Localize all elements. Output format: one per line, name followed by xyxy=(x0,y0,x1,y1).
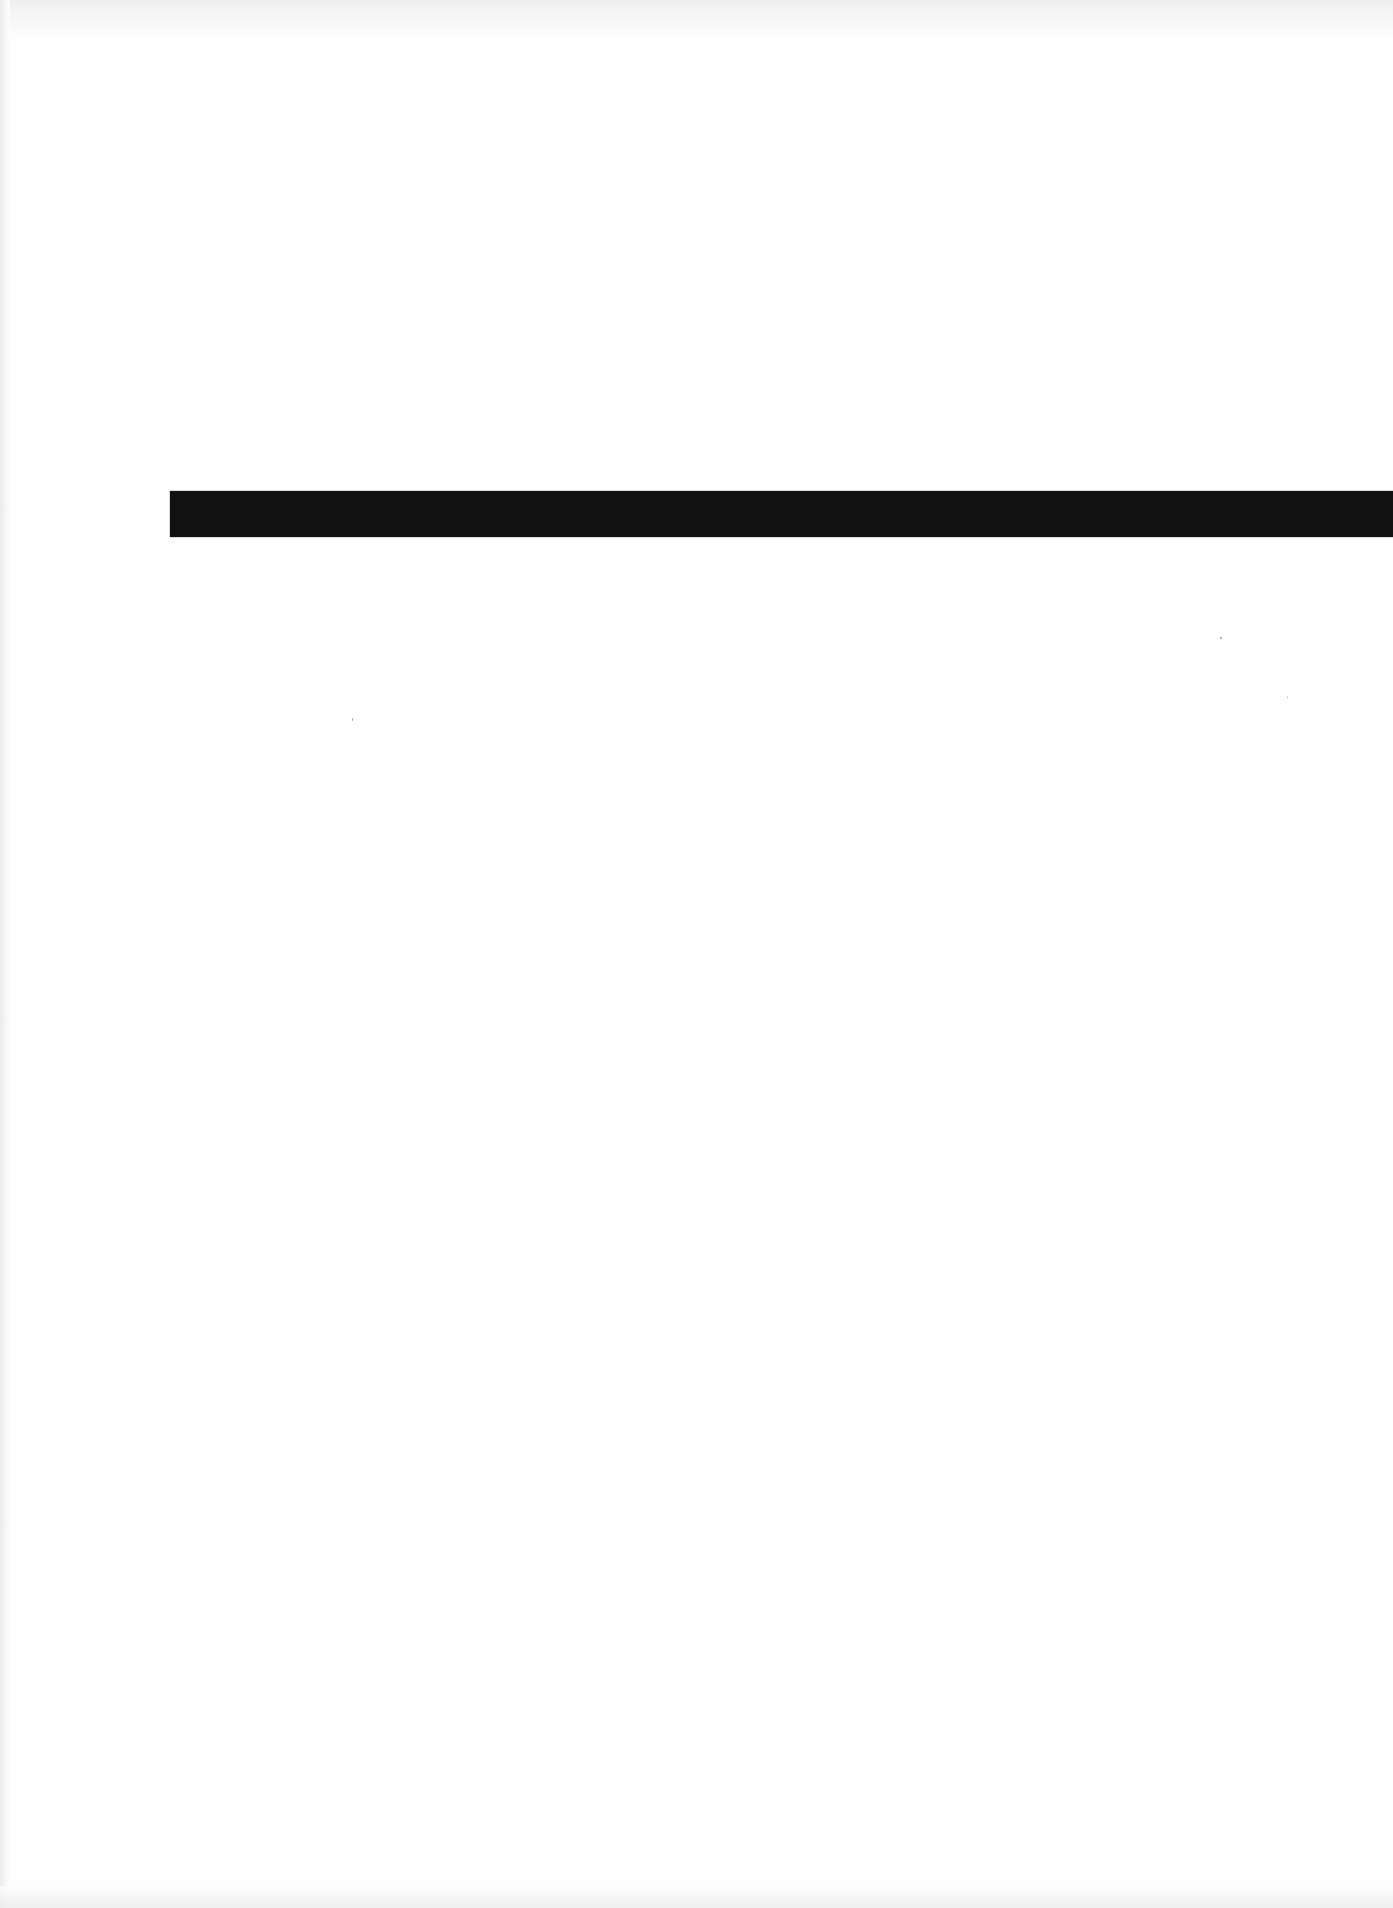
scan-noise-bottom-edge xyxy=(0,1886,1393,1908)
scan-speck xyxy=(1287,696,1288,699)
horizontal-rule-bar xyxy=(170,491,1393,537)
scan-noise-top-edge xyxy=(0,0,1393,34)
scanned-page xyxy=(0,0,1393,1908)
scan-speck xyxy=(352,718,353,721)
scan-speck xyxy=(1220,637,1222,639)
scan-shadow-left-edge xyxy=(0,0,10,1908)
